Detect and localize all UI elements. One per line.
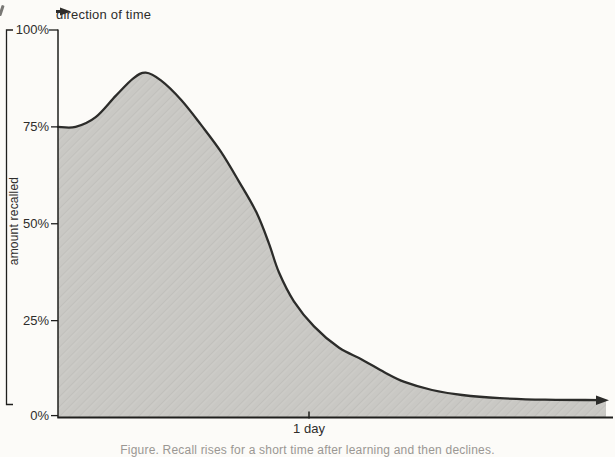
curve-area-fill bbox=[58, 73, 606, 418]
y-tick-label-75: 75% bbox=[0, 119, 49, 134]
direction-of-time-label: direction of time bbox=[56, 7, 157, 22]
y-tick-label-25: 25% bbox=[0, 313, 49, 328]
x-tick-label: 1 day bbox=[264, 421, 354, 436]
y-tick-label-50: 50% bbox=[0, 216, 49, 231]
figure-caption: Figure. Recall rises for a short time af… bbox=[0, 443, 615, 457]
y-tick-label-0: 0% bbox=[0, 408, 49, 423]
y-tick-label-100: 100% bbox=[0, 22, 49, 37]
